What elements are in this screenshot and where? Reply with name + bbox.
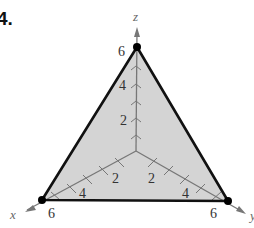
triangle-plane-diagram: z x y 6 4 2 2 4 6 2 4 6 xyxy=(0,0,254,228)
vertex-z xyxy=(133,43,141,51)
y-axis-label: y xyxy=(248,208,254,223)
z-axis-label: z xyxy=(132,9,138,24)
x-axis-label: x xyxy=(9,207,16,222)
z-tick-2: 2 xyxy=(120,113,127,128)
plane-triangle xyxy=(42,47,228,201)
y-tick-6: 6 xyxy=(210,206,217,221)
x-tick-4: 4 xyxy=(79,186,86,201)
y-arrow-icon xyxy=(236,206,246,214)
y-tick-4: 4 xyxy=(182,186,189,201)
x-tick-6: 6 xyxy=(48,206,55,221)
z-tick-4: 4 xyxy=(119,78,126,93)
vertex-x xyxy=(38,196,46,204)
vertex-y xyxy=(224,197,232,205)
z-tick-6: 6 xyxy=(118,44,125,59)
z-arrow-icon xyxy=(134,27,140,37)
x-tick-2: 2 xyxy=(112,171,119,186)
y-tick-2: 2 xyxy=(148,171,155,186)
